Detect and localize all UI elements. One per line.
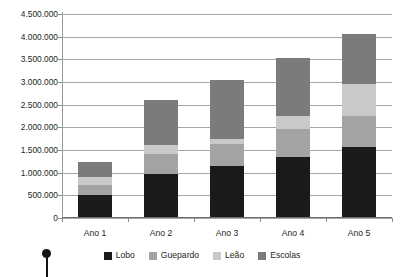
y-axis-tick-label: 3.000.000 — [0, 78, 58, 86]
bar-segment — [210, 166, 244, 218]
pin-stem — [46, 257, 48, 277]
stacked-bar-chart: 4.500.0004.000.0003.500.0003.000.0002.50… — [0, 0, 404, 277]
bar-segment — [276, 58, 310, 116]
bar-segment — [78, 162, 112, 177]
bar-segment — [276, 116, 310, 129]
legend-swatch-icon — [149, 252, 157, 260]
x-axis-tick-mark — [260, 218, 261, 222]
y-axis-tick-label: 1.000.000 — [0, 169, 58, 177]
legend-item[interactable]: Guepardo — [149, 251, 199, 260]
y-axis-tick-label: 2.500.000 — [0, 101, 58, 109]
y-axis-tick-label: 500.000 — [0, 191, 58, 199]
x-axis-line — [62, 217, 392, 218]
legend-swatch-icon — [213, 252, 221, 260]
bar-column — [78, 162, 112, 218]
legend-item[interactable]: Leão — [213, 251, 244, 260]
bar-segment — [342, 116, 376, 148]
y-axis-tick-label: 0 — [0, 214, 58, 222]
legend-swatch-icon — [104, 252, 112, 260]
y-axis-tick-label: 3.500.000 — [0, 55, 58, 63]
bar-segment — [342, 147, 376, 218]
x-axis-tick-mark — [128, 218, 129, 222]
gridline — [62, 218, 392, 219]
bar-column — [342, 34, 376, 218]
bar-segment — [342, 84, 376, 116]
y-axis-tick-label: 2.000.000 — [0, 123, 58, 131]
legend-label: Escolas — [270, 251, 300, 260]
x-axis-label: Ano 2 — [128, 228, 194, 238]
bar-segment — [144, 174, 178, 218]
x-axis-label: Ano 1 — [62, 228, 128, 238]
bar-segment — [276, 129, 310, 157]
x-axis-label: Ano 5 — [326, 228, 392, 238]
bar-segment — [276, 157, 310, 218]
bar-column — [276, 58, 310, 218]
bar-segment — [78, 177, 112, 185]
legend-label: Lobo — [116, 251, 135, 260]
y-axis-tick-label: 1.500.000 — [0, 146, 58, 154]
x-axis-label: Ano 4 — [260, 228, 326, 238]
x-axis-tick-mark — [194, 218, 195, 222]
y-axis-tick-label: 4.500.000 — [0, 10, 58, 18]
bar-segment — [342, 34, 376, 83]
bar-segment — [144, 100, 178, 145]
plot-area — [62, 14, 392, 218]
x-axis-tick-mark — [62, 218, 63, 222]
cropped-title-strip — [0, 0, 404, 6]
gridline — [62, 14, 392, 15]
legend-item[interactable]: Lobo — [104, 251, 135, 260]
bar-segment — [78, 185, 112, 195]
bar-segment — [144, 145, 178, 153]
legend-label: Leão — [225, 251, 244, 260]
legend-label: Guepardo — [161, 251, 199, 260]
x-axis-label: Ano 3 — [194, 228, 260, 238]
legend-swatch-icon — [258, 252, 266, 260]
x-axis-tick-mark — [392, 218, 393, 222]
bar-segment — [144, 154, 178, 174]
bar-segment — [78, 195, 112, 218]
bar-segment — [210, 144, 244, 166]
legend-item[interactable]: Escolas — [258, 251, 300, 260]
x-axis-tick-mark — [326, 218, 327, 222]
pin-marker-icon — [41, 249, 53, 277]
bar-segment — [210, 80, 244, 139]
bar-column — [144, 100, 178, 218]
bar-column — [210, 80, 244, 218]
chart-legend: LoboGuepardoLeãoEscolas — [0, 251, 404, 260]
y-axis-tick-label: 4.000.000 — [0, 33, 58, 41]
